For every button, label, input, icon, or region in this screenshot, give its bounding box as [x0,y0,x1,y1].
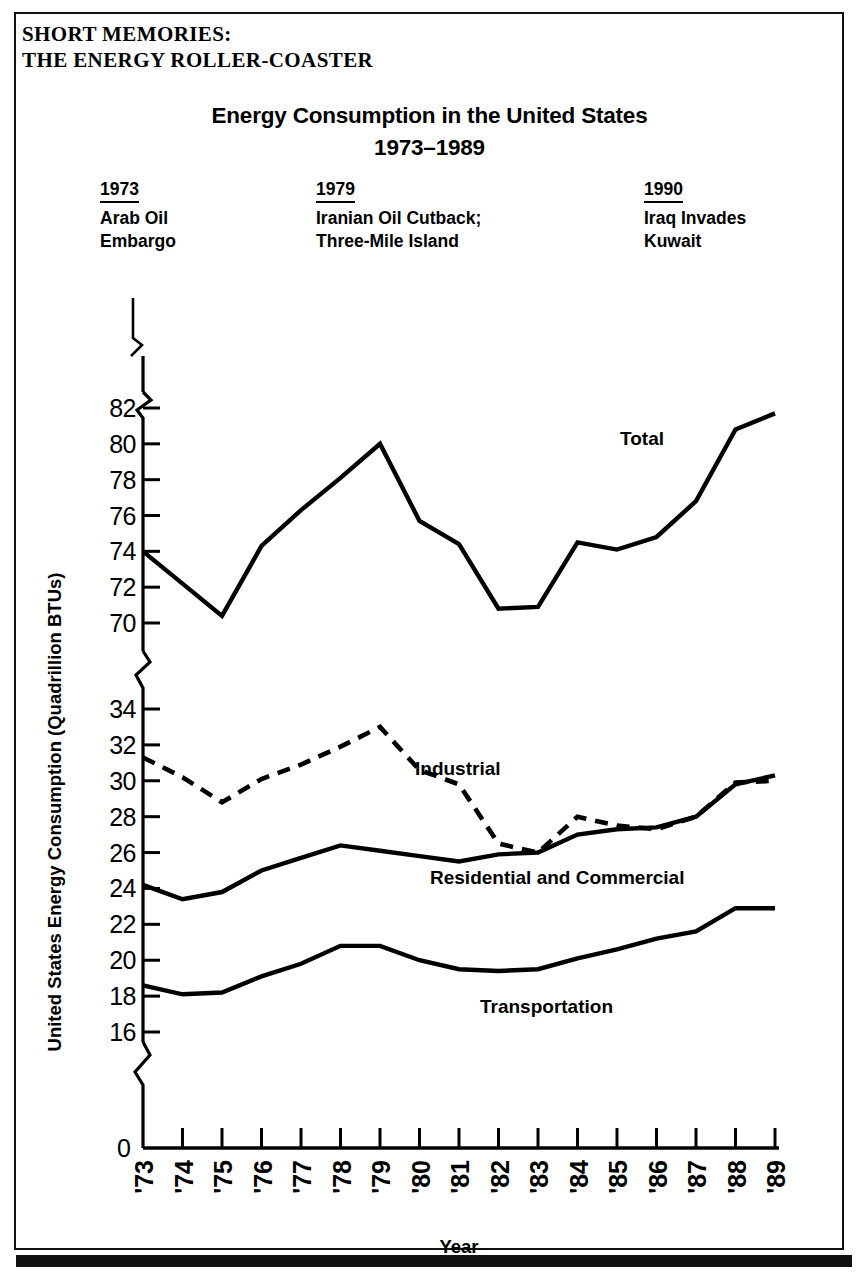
x-axis-tick-label: '89 [762,1160,790,1194]
series-label-total: Total [620,428,664,449]
y-axis-break-upper [137,392,151,651]
series-line-industrial [143,727,775,853]
y-axis-tick-label: 24 [109,874,136,902]
y-axis-tick-label: 78 [109,466,136,494]
y-axis-tick-label: 72 [109,573,136,601]
y-axis-tick-label: 80 [109,430,136,458]
y-axis-tick-label: 22 [109,910,136,938]
y-axis-tick-label: 70 [109,609,136,637]
masthead-line-2: THE ENERGY ROLLER-COASTER [22,48,542,74]
chart-plot: 70727476788082 16182022242628303234 '73'… [0,0,859,1282]
series-path-group [143,413,775,994]
x-axis-tick-label: '84 [565,1160,593,1194]
y-axis-title: United States Energy Consumption (Quadri… [44,573,65,1052]
y-axis-tick-label: 82 [109,394,136,422]
x-axis-tick-label: '79 [367,1160,395,1194]
x-axis-tick-label: '77 [288,1160,316,1194]
masthead: SHORT MEMORIES: THE ENERGY ROLLER-COASTE… [16,20,548,77]
x-axis-tick-label: '87 [683,1160,711,1194]
x-axis-tick-label: '82 [486,1160,514,1194]
x-tick-group: '73'74'75'76'77'78'79'80'81'82'83'84'85'… [130,1128,790,1194]
x-axis-tick-label: '83 [525,1160,553,1194]
y-axis-break-lower [135,1042,150,1148]
y-axis-tick-label: 32 [109,731,136,759]
y-axis-zero-label: 0 [117,1134,131,1162]
series-label-transportation: Transportation [480,996,613,1017]
x-axis-tick-label: '86 [644,1160,672,1194]
x-axis-tick-label: '73 [130,1160,158,1194]
x-axis-tick-label: '75 [209,1160,237,1194]
series-label-industrial: Industrial [415,758,501,779]
y-axis-tick-label: 76 [109,502,136,530]
y-tick-group-upper: 70727476788082 [109,394,160,637]
series-label-residential-and-commercial: Residential and Commercial [430,867,684,888]
masthead-line-1: SHORT MEMORIES: [22,22,542,48]
series-line-transportation [143,908,775,994]
x-axis-tick-label: '81 [446,1160,474,1194]
event-leader-line [131,298,142,356]
y-axis-tick-label: 20 [109,946,136,974]
x-axis-tick-label: '80 [407,1160,435,1194]
y-axis-tick-label: 16 [109,1018,136,1046]
chart-page: SHORT MEMORIES: THE ENERGY ROLLER-COASTE… [0,0,859,1282]
x-axis-tick-label: '74 [170,1160,198,1194]
series-label-group: TotalIndustrialResidential and Commercia… [415,428,684,1017]
x-axis-tick-label: '78 [328,1160,356,1194]
x-axis-tick-label: '88 [723,1160,751,1194]
y-tick-group-lower: 16182022242628303234 [109,695,160,1046]
y-axis-tick-label: 74 [109,537,136,565]
x-axis-tick-label: '76 [249,1160,277,1194]
x-axis-title: Year [439,1236,478,1257]
y-axis-tick-label: 18 [109,982,136,1010]
y-axis-tick-label: 34 [109,695,136,723]
y-axis-tick-label: 28 [109,803,136,831]
series-line-total [143,413,775,615]
y-axis-tick-label: 26 [109,839,136,867]
y-axis-tick-label: 30 [109,767,136,795]
y-axis [135,356,151,1148]
x-axis-tick-label: '85 [604,1160,632,1194]
